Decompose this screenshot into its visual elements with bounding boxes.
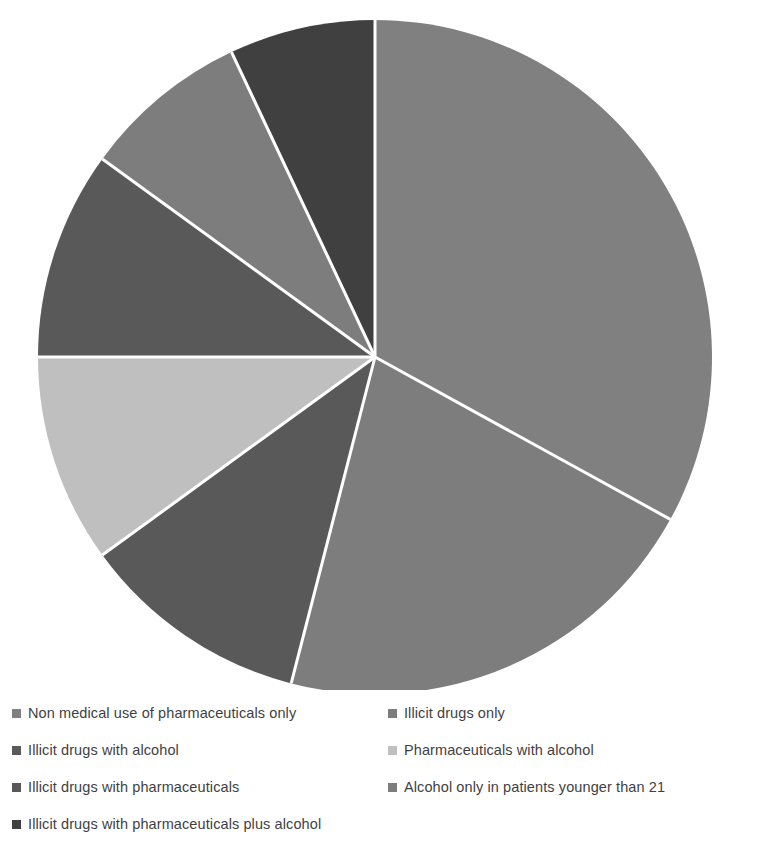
legend-column-right: Pharmaceuticals with alcohol	[388, 743, 756, 759]
legend-item-illicit-drugs-with-alcohol[interactable]: Illicit drugs with alcohol	[12, 743, 179, 759]
pie-svg	[0, 0, 764, 690]
legend-item-label: Alcohol only in patients younger than 21	[404, 780, 665, 796]
legend-swatch-icon	[388, 746, 397, 755]
chart-legend: Non medical use of pharmaceuticals only …	[0, 690, 764, 861]
legend-row: Illicit drugs with pharmaceuticals plus …	[12, 817, 756, 854]
legend-swatch-icon	[12, 746, 21, 755]
legend-item-illicit-drugs-only[interactable]: Illicit drugs only	[388, 706, 505, 722]
legend-swatch-icon	[12, 820, 21, 829]
legend-item-label: Illicit drugs only	[404, 706, 505, 722]
legend-swatch-icon	[12, 709, 21, 718]
legend-row: Illicit drugs with pharmaceuticals Alcoh…	[12, 780, 756, 817]
legend-item-label: Pharmaceuticals with alcohol	[404, 743, 594, 759]
legend-row: Illicit drugs with alcohol Pharmaceutica…	[12, 743, 756, 780]
legend-column-right: Illicit drugs only	[388, 706, 756, 722]
legend-item-illicit-drugs-with-pharmaceuticals-plus-alcohol[interactable]: Illicit drugs with pharmaceuticals plus …	[12, 817, 321, 833]
legend-item-label: Illicit drugs with alcohol	[28, 743, 179, 759]
legend-swatch-icon	[388, 783, 397, 792]
legend-item-label: Illicit drugs with pharmaceuticals	[28, 780, 239, 796]
legend-swatch-icon	[388, 709, 397, 718]
pie-chart-figure: Non medical use of pharmaceuticals only …	[0, 0, 764, 861]
legend-item-label: Non medical use of pharmaceuticals only	[28, 706, 296, 722]
legend-column-left: Non medical use of pharmaceuticals only	[12, 706, 388, 722]
legend-swatch-icon	[12, 783, 21, 792]
legend-column-left: Illicit drugs with alcohol	[12, 743, 388, 759]
legend-column-right: Alcohol only in patients younger than 21	[388, 780, 756, 796]
legend-item-alcohol-only-in-patients-younger-than-21[interactable]: Alcohol only in patients younger than 21	[388, 780, 665, 796]
legend-item-non-medical-use-of-pharmaceuticals-only[interactable]: Non medical use of pharmaceuticals only	[12, 706, 296, 722]
pie-plot-area	[0, 0, 764, 690]
legend-item-pharmaceuticals-with-alcohol[interactable]: Pharmaceuticals with alcohol	[388, 743, 594, 759]
legend-column-left: Illicit drugs with pharmaceuticals	[12, 780, 388, 796]
legend-row: Non medical use of pharmaceuticals only …	[12, 706, 756, 743]
legend-column-left: Illicit drugs with pharmaceuticals plus …	[12, 817, 388, 833]
legend-item-label: Illicit drugs with pharmaceuticals plus …	[28, 817, 321, 833]
legend-item-illicit-drugs-with-pharmaceuticals[interactable]: Illicit drugs with pharmaceuticals	[12, 780, 239, 796]
